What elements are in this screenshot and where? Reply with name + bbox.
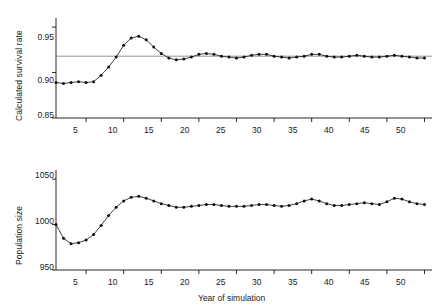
population-size-panel: Population size 1050 1000 950 5 10 15 20… [0, 150, 447, 307]
survival-rate-plot [0, 0, 447, 140]
population-size-plot [0, 150, 447, 307]
survival-rate-panel: Calculated survival rate 0.95 0.90 0.85 … [0, 0, 447, 140]
